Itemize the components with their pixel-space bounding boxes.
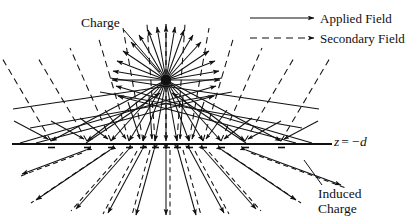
boundary-label: z=−d xyxy=(334,134,367,150)
legend-label-applied-field: Applied Field xyxy=(320,11,392,27)
legend-label-secondary-field: Secondary Field xyxy=(320,31,405,47)
transmitted-field-solid xyxy=(22,150,341,215)
transmitted-field-dashed xyxy=(18,150,346,215)
induced-charge-label: Induced Charge xyxy=(318,186,361,216)
boundary-value: −d xyxy=(351,134,367,149)
induced-charge-label-line2: Charge xyxy=(318,201,361,216)
induced-charge-label-line1: Induced xyxy=(318,186,361,201)
charge-point-marker xyxy=(154,68,178,92)
charge-label: Charge xyxy=(81,15,120,31)
field-diagram: Applied Field Secondary Field Charge z=−… xyxy=(0,0,408,223)
boundary-operator: = xyxy=(339,134,351,149)
legend-symbols xyxy=(248,6,328,54)
